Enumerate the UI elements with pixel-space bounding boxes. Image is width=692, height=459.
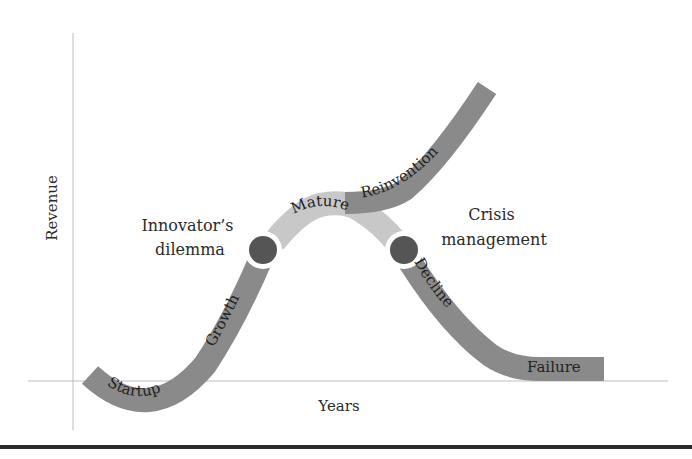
lifecycle-diagram: Startup Growth Mature Reinvention Declin… <box>0 0 692 459</box>
bottom-rule <box>0 445 692 449</box>
x-axis-label: Years <box>317 397 359 415</box>
node-crisis-management <box>390 236 418 264</box>
y-axis-label: Revenue <box>43 175 61 241</box>
stage-label-failure: Failure <box>527 358 581 376</box>
node-innovators-dilemma <box>249 236 277 264</box>
label-crisis-management: Crisis management <box>441 205 547 249</box>
label-innovators-dilemma: Innovator’s dilemma <box>141 216 238 259</box>
